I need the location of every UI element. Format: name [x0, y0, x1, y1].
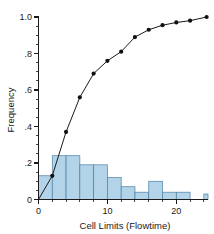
y-axis-title: Frequency	[5, 87, 16, 132]
x-tick-label: 20	[171, 206, 181, 216]
histogram-bar	[204, 194, 208, 199]
histogram-bar	[149, 181, 163, 199]
cumulative-data-point	[78, 95, 82, 99]
histogram-bars	[39, 156, 209, 200]
histogram-bar	[66, 156, 80, 200]
histogram-bar	[176, 192, 190, 199]
cumulative-data-point	[160, 23, 164, 27]
histogram-bar	[135, 192, 149, 199]
cumulative-data-point	[188, 19, 192, 23]
cumulative-data-point	[147, 28, 151, 32]
histogram-bar	[80, 165, 94, 200]
chart-container: 01020 0.2.4.6.81.0 Cell Limits (Flowtime…	[0, 0, 214, 234]
cumulative-data-point	[92, 71, 96, 75]
x-axis-title: Cell Limits (Flowtime)	[80, 220, 171, 231]
y-tick-label: 0	[27, 195, 32, 205]
x-tick-label: 0	[36, 206, 41, 216]
cumulative-data-point	[105, 59, 109, 63]
cumulative-data-point	[174, 20, 178, 24]
cumulative-data-point	[133, 35, 137, 39]
histogram-bar	[52, 156, 66, 200]
y-tick-label: .4	[24, 122, 32, 132]
frequency-histogram-chart: 01020 0.2.4.6.81.0 Cell Limits (Flowtime…	[0, 0, 214, 234]
cumulative-data-point	[205, 15, 209, 19]
cumulative-data-point	[64, 130, 68, 134]
x-axis-tick-labels: 01020	[36, 206, 181, 216]
x-tick-label: 10	[102, 206, 112, 216]
histogram-bar	[94, 165, 108, 200]
cumulative-data-point	[119, 50, 123, 54]
y-tick-label: 1.0	[19, 12, 32, 22]
histogram-bar	[121, 187, 135, 200]
y-tick-label: .8	[24, 49, 32, 59]
cumulative-data-point	[50, 174, 54, 178]
histogram-bar	[163, 192, 177, 199]
histogram-bar	[107, 178, 121, 200]
y-tick-label: .6	[24, 85, 32, 95]
y-axis-tick-labels: 0.2.4.6.81.0	[19, 12, 32, 205]
y-tick-label: .2	[24, 158, 32, 168]
cumulative-frequency-markers	[50, 15, 209, 178]
y-axis-ticks	[34, 17, 39, 200]
x-axis-ticks	[39, 200, 204, 205]
